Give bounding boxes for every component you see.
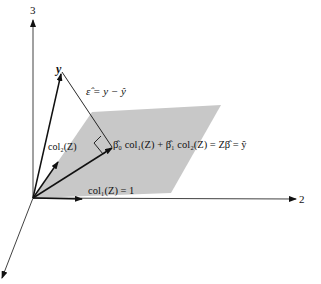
projection-label: β̂₀ col₁(Z) + β̂₁ col₂(Z) = Zβ̂ = ŷ — [113, 140, 247, 151]
axis-3-label: 3 — [30, 5, 36, 16]
residual-label: ε̂ = y − ŷ — [86, 86, 126, 97]
axis-1 — [2, 198, 33, 278]
vector-col1 — [33, 198, 82, 199]
axis-2-label: 2 — [299, 194, 305, 205]
col1-label: col₁(Z) = 1 — [88, 186, 134, 197]
col2-label: col₂(Z) — [48, 142, 76, 152]
y-label: y — [56, 63, 61, 75]
